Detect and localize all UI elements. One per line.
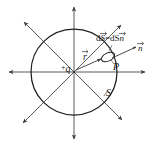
gauss-law-figure: +q r P S n dS=dSn <box>0 0 153 151</box>
field-line-southeast <box>74 72 122 120</box>
normal-vector-label: n <box>138 44 143 53</box>
point-charge-icon <box>73 71 75 73</box>
radius-vector-symbol: r <box>83 52 87 62</box>
radius-vector-arrow-icon <box>76 59 101 70</box>
charge-symbol: q <box>66 63 71 74</box>
normal-vector-symbol: n <box>138 44 143 53</box>
flux-element-rhs-vector: n <box>120 34 125 43</box>
field-line-southwest <box>23 72 74 123</box>
surface-label: S <box>106 88 111 98</box>
field-lines-group <box>9 7 145 139</box>
flux-element-label: dS=dSn <box>96 34 124 43</box>
figure-canvas <box>0 0 153 151</box>
point-label: P <box>113 62 119 72</box>
point-charge-label: +q <box>61 64 71 74</box>
normal-vector-arrow-icon <box>112 47 136 58</box>
flux-element-lhs-vector: S <box>101 34 106 43</box>
radius-vector-label: r <box>83 52 87 62</box>
